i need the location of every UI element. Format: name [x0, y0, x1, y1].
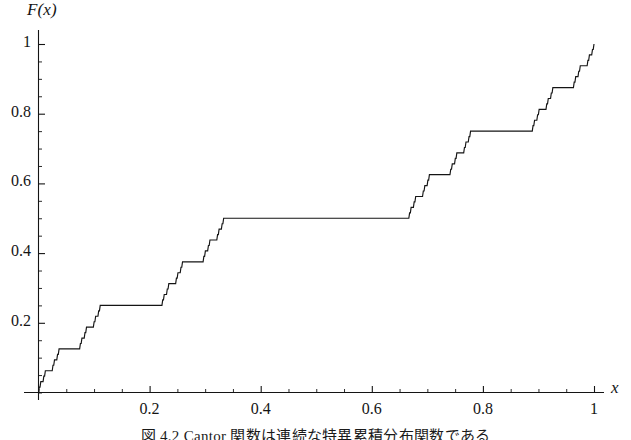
x-tick-label: 0.6	[350, 400, 394, 418]
y-tick-label: 0.4	[0, 242, 31, 260]
cantor-function-plot	[0, 0, 631, 440]
y-axis-ticks	[39, 45, 46, 394]
axes-group	[24, 30, 604, 400]
x-tick-label: 0.4	[239, 400, 283, 418]
y-tick-label: 0.6	[0, 172, 31, 190]
y-tick-label: 0.2	[0, 312, 31, 330]
figure-caption: 図 4.2 Cantor 関数は連続な特異累積分布関数である	[0, 424, 631, 440]
x-tick-label: 1	[572, 400, 616, 418]
y-tick-label: 1	[0, 33, 31, 51]
cantor-staircase-curve	[39, 44, 595, 393]
x-axis-ticks	[39, 386, 595, 393]
x-tick-label: 0.2	[128, 400, 172, 418]
y-tick-label: 0.8	[0, 103, 31, 121]
x-tick-label: 0.8	[461, 400, 505, 418]
figure-cantor-function: F(x) x 0.20.40.60.81 0.20.40.60.81 図 4.2…	[0, 0, 631, 440]
